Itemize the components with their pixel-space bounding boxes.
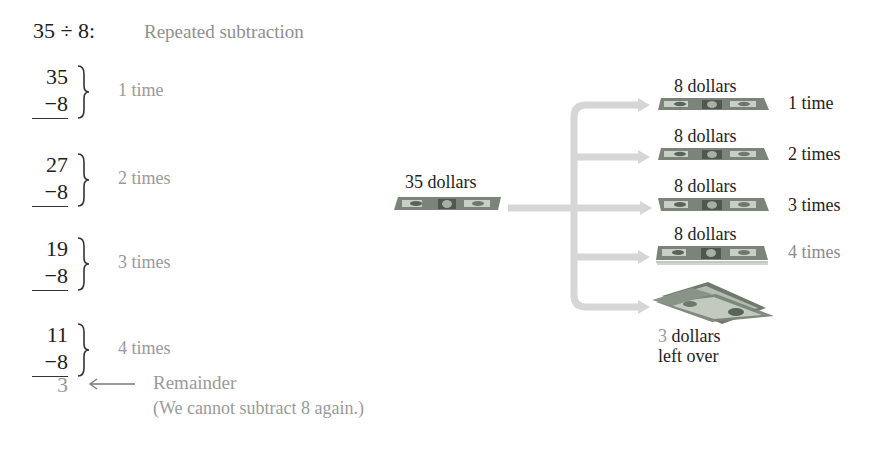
loose-dollar-bills-icon bbox=[652, 280, 776, 326]
leftover-unit: dollars bbox=[667, 326, 721, 346]
remainder-label: Remainder bbox=[153, 372, 236, 394]
subtraction-step: 19 −8 3 times bbox=[30, 236, 230, 306]
subtrahend: −8 bbox=[32, 179, 68, 207]
group-count-label: 1 time bbox=[788, 93, 834, 114]
group-count-label: 3 times bbox=[788, 195, 841, 216]
right-brace-icon bbox=[76, 322, 90, 378]
method-title: Repeated subtraction bbox=[144, 21, 304, 43]
group-amount-label: 8 dollars bbox=[674, 176, 737, 197]
subtraction-step: 35 −8 1 time bbox=[30, 64, 230, 134]
dollar-bill-icon bbox=[658, 198, 770, 212]
step-count-label: 4 times bbox=[118, 338, 171, 359]
right-brace-icon bbox=[76, 236, 90, 292]
dollar-bill-stack-icon bbox=[656, 246, 770, 265]
distribution-arrows bbox=[500, 90, 660, 320]
subtraction-step: 27 −8 2 times bbox=[30, 152, 230, 222]
step-count-label: 3 times bbox=[118, 252, 171, 273]
subtrahend: −8 bbox=[32, 263, 68, 291]
source-amount-label: 35 dollars bbox=[405, 172, 477, 193]
group-count-label: 2 times bbox=[788, 144, 841, 165]
minuend: 35 bbox=[34, 64, 68, 90]
minuend: 19 bbox=[34, 236, 68, 262]
dollar-bill-icon bbox=[658, 148, 770, 161]
dollar-bill-icon bbox=[658, 98, 770, 111]
left-arrow-icon bbox=[88, 377, 136, 391]
group-amount-label: 8 dollars bbox=[674, 126, 737, 147]
right-brace-icon bbox=[76, 152, 90, 208]
remainder-note: (We cannot subtract 8 again.) bbox=[153, 398, 364, 419]
step-count-label: 2 times bbox=[118, 168, 171, 189]
group-count-label: 4 times bbox=[788, 242, 841, 263]
group-amount-label: 8 dollars bbox=[674, 76, 737, 97]
minuend: 27 bbox=[34, 152, 68, 178]
dollar-bill-icon bbox=[394, 197, 502, 211]
leftover-line2: left over bbox=[658, 346, 718, 367]
leftover-line1: 3 dollars bbox=[658, 326, 721, 347]
subtrahend: −8 bbox=[32, 91, 68, 119]
minuend: 11 bbox=[34, 322, 68, 348]
step-count-label: 1 time bbox=[118, 80, 164, 101]
leftover-digit: 3 bbox=[658, 326, 667, 346]
remainder-value: 3 bbox=[57, 372, 68, 398]
group-amount-label: 8 dollars bbox=[674, 224, 737, 245]
right-brace-icon bbox=[76, 64, 90, 120]
division-expression: 35 ÷ 8: bbox=[33, 18, 95, 44]
